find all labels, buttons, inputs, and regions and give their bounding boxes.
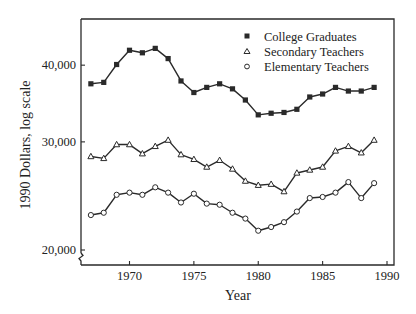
filled-square-marker-icon [372,85,377,90]
open-circle-marker-icon [166,190,171,195]
filled-square-marker-icon [256,112,261,117]
filled-square-marker-icon [140,50,145,55]
filled-square-marker-icon [178,78,183,83]
x-tick-label: 1970 [117,269,142,283]
open-circle-marker-icon [243,216,248,221]
y-tick-label: 20,000 [42,243,76,257]
open-circle-marker-icon [281,220,286,225]
filled-square-marker-icon [101,80,106,85]
legend-label: Elementary Teachers [264,60,369,74]
open-circle-marker-icon [269,224,274,229]
open-circle-marker-icon [101,210,106,215]
open-circle-marker-icon [372,181,377,186]
legend-label: College Graduates [264,30,357,44]
open-circle-marker-icon [114,192,119,197]
filled-square-marker-icon [127,48,132,53]
open-circle-marker-icon [153,185,158,190]
x-tick-label: 1980 [246,269,271,283]
open-circle-marker-icon [346,179,351,184]
filled-square-marker-icon [230,86,235,91]
filled-square-marker-icon [281,110,286,115]
open-circle-marker-icon [320,194,325,199]
filled-square-marker-icon [269,111,274,116]
filled-square-marker-icon [359,88,364,93]
filled-square-marker-icon [153,46,158,51]
legend-item-elementary-teachers: Elementary Teachers [245,60,369,74]
open-circle-marker-icon [191,191,196,196]
filled-square-marker-icon [294,107,299,112]
x-tick-label: 1990 [375,269,400,283]
open-circle-marker-icon [178,200,183,205]
filled-square-marker-icon [243,97,248,102]
open-circle-marker-icon [294,209,299,214]
filled-square-marker-icon [333,85,338,90]
open-circle-marker-icon [333,190,338,195]
filled-square-marker-icon [307,94,312,99]
open-circle-marker-icon [307,195,312,200]
filled-square-marker-icon [191,90,196,95]
x-tick-label: 1975 [181,269,206,283]
filled-square-marker-icon [320,91,325,96]
filled-square-marker-icon [204,85,209,90]
y-tick-label: 30,000 [42,135,76,149]
y-tick-label: 40,000 [42,58,76,72]
open-circle-marker-icon [217,202,222,207]
filled-square-marker-icon [88,81,93,86]
open-circle-marker-icon [140,192,145,197]
open-circle-marker-icon [230,210,235,215]
legend-label: Secondary Teachers [264,45,364,59]
open-circle-marker-icon [88,212,93,217]
line-chart: 19701975198019851990 20,00030,00040,000 … [0,0,416,314]
filled-square-marker-icon [346,88,351,93]
open-circle-marker-icon [245,64,250,69]
open-circle-marker-icon [359,195,364,200]
open-circle-marker-icon [127,190,132,195]
open-circle-marker-icon [204,201,209,206]
x-tick-label: 1985 [310,269,335,283]
open-circle-marker-icon [256,228,261,233]
x-axis-title: Year [225,288,251,303]
filled-square-marker-icon [245,34,250,39]
filled-square-marker-icon [217,81,222,86]
filled-square-marker-icon [166,56,171,61]
y-axis-title: 1990 Dollars, log scale [18,80,33,209]
filled-square-marker-icon [114,62,119,67]
